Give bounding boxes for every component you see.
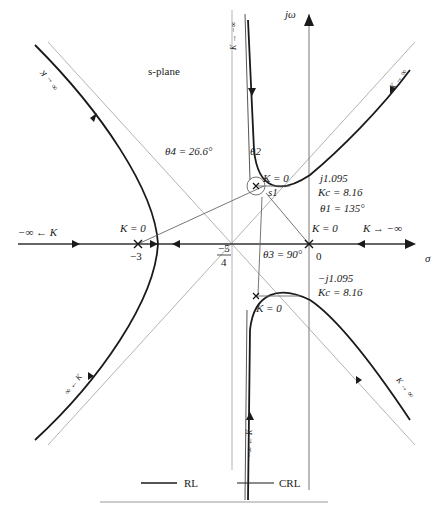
pole-minus3-label: −3 — [130, 250, 142, 262]
theta2-label: θ2 — [250, 145, 261, 157]
pole-s1-label: s1 — [268, 186, 278, 198]
centroid-denominator: 4 — [221, 256, 227, 268]
pole-minus3-k-label: K = 0 — [119, 222, 146, 234]
pole-origin-k-label: K = 0 — [311, 222, 338, 234]
lower-crossing-gain: Kc = 8.16 — [317, 286, 363, 298]
branch-label-upper-right: K → ∞ — [387, 67, 409, 92]
pole-s1conj-k-label: K = 0 — [255, 302, 282, 314]
branch-label-upper-left: ∞ ← K — [38, 68, 60, 92]
real-axis-label: σ — [425, 252, 431, 264]
root-locus-diagram: s-plane jω σ 0 −3 K = 0 K = 0 K = 0 K = … — [0, 0, 447, 511]
imag-axis-label: jω — [283, 8, 296, 20]
branch-label-top: K → −∞ — [229, 21, 238, 51]
legend-crl-label: CRL — [279, 477, 301, 489]
pole-s1-k-label: K = 0 — [262, 172, 289, 184]
centroid-numerator: −5 — [218, 242, 230, 254]
pole-markers — [134, 183, 313, 299]
lower-crossing-freq: −j1.095 — [318, 272, 354, 284]
origin-label: 0 — [316, 250, 322, 262]
angle-construction — [138, 177, 309, 296]
theta1-label: θ1 = 135° — [320, 202, 365, 214]
theta3-label: θ3 = 90° — [263, 248, 303, 260]
direction-arrows — [72, 86, 396, 420]
branch-label-right-axis: K → −∞ — [362, 222, 402, 234]
branch-label-lower-right: K → ∞ — [394, 375, 416, 400]
imag-axis-arrowhead — [304, 14, 314, 26]
rl-lower-right-branch — [248, 293, 410, 500]
branch-label-left-axis: −∞ ← K — [18, 226, 58, 238]
upper-crossing-freq: j1.095 — [318, 172, 348, 184]
real-axis-arrowhead — [405, 239, 416, 249]
asymptotes — [48, 10, 415, 470]
s-plane-label: s-plane — [148, 65, 180, 77]
legend-rl-label: RL — [184, 477, 198, 489]
branch-label-bottom: −∞ ← K — [245, 429, 254, 458]
theta4-label: θ4 = 26.6° — [165, 145, 213, 157]
rl-upper-right-branch — [248, 20, 410, 186]
legend: RL CRL — [141, 477, 301, 489]
crl-bottom — [245, 310, 247, 500]
upper-crossing-gain: Kc = 8.16 — [317, 186, 363, 198]
